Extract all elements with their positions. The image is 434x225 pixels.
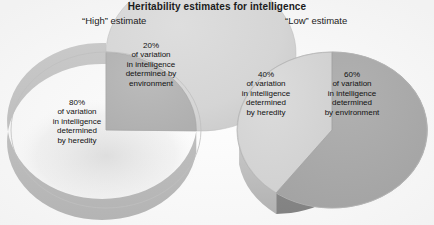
page-title: Heritability estimates for intelligence [0, 1, 434, 12]
panel-subtitle-high: “High” estimate [82, 15, 146, 26]
panel-subtitle-low: “Low” estimate [285, 15, 347, 26]
pie-chart-low [232, 30, 432, 215]
chart-canvas: Heritability estimates for intelligence … [0, 0, 434, 225]
pie-chart-high [6, 30, 206, 215]
